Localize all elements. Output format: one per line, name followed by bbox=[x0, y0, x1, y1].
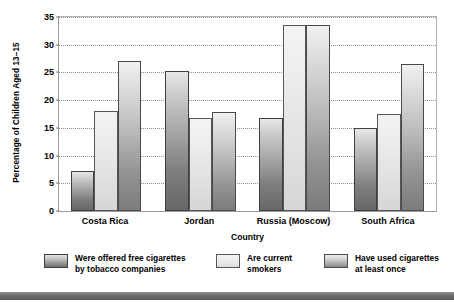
bottom-rule-divider bbox=[0, 292, 454, 300]
x-tick-label: Costa Rica bbox=[58, 216, 152, 226]
bar bbox=[283, 25, 307, 211]
bar bbox=[165, 71, 189, 211]
bar-group bbox=[153, 17, 247, 211]
plot-inner: 05101520253035 bbox=[59, 17, 436, 211]
legend-label: Are current smokers bbox=[247, 253, 292, 274]
bar bbox=[118, 61, 142, 211]
legend-item[interactable]: Are current smokers bbox=[216, 253, 292, 274]
y-tick-label: 25 bbox=[44, 67, 54, 77]
bar bbox=[94, 111, 118, 211]
legend-swatch-icon bbox=[324, 254, 348, 268]
bar bbox=[212, 112, 236, 211]
y-tick-label: 10 bbox=[44, 151, 54, 161]
bar bbox=[189, 118, 213, 211]
y-tick-label: 35 bbox=[44, 12, 54, 22]
x-tick-label: Jordan bbox=[152, 216, 246, 226]
legend-swatch-icon bbox=[44, 254, 68, 268]
y-tick-label: 15 bbox=[44, 123, 54, 133]
bar-group bbox=[59, 17, 153, 211]
bar-chart-figure: Percentage of Children Aged 13–15 051015… bbox=[0, 0, 454, 308]
bar bbox=[306, 25, 330, 211]
legend-label: Have used cigarettes at least once bbox=[355, 253, 439, 274]
x-tick-label: South Africa bbox=[341, 216, 435, 226]
y-axis-title: Percentage of Children Aged 13–15 bbox=[12, 13, 21, 213]
plot-area: 05101520253035 bbox=[58, 16, 437, 212]
bar bbox=[401, 64, 425, 211]
legend-item[interactable]: Were offered free cigarettes by tobacco … bbox=[44, 253, 186, 274]
legend-item[interactable]: Have used cigarettes at least once bbox=[324, 253, 439, 274]
y-tick-label: 5 bbox=[49, 178, 54, 188]
x-tick-label: Russia (Moscow) bbox=[247, 216, 341, 226]
legend-swatch-icon bbox=[216, 254, 240, 268]
y-tick-label: 30 bbox=[44, 40, 54, 50]
bar-group bbox=[248, 17, 342, 211]
bar bbox=[354, 128, 378, 211]
y-tick-label: 0 bbox=[49, 206, 54, 216]
bar bbox=[259, 118, 283, 211]
legend-label: Were offered free cigarettes by tobacco … bbox=[75, 253, 186, 274]
bar bbox=[71, 171, 95, 211]
bar-group bbox=[342, 17, 436, 211]
bar bbox=[377, 114, 401, 211]
y-tick-label: 20 bbox=[44, 95, 54, 105]
x-axis-title: Country bbox=[58, 232, 437, 242]
chart-legend: Were offered free cigarettes by tobacco … bbox=[44, 253, 444, 283]
